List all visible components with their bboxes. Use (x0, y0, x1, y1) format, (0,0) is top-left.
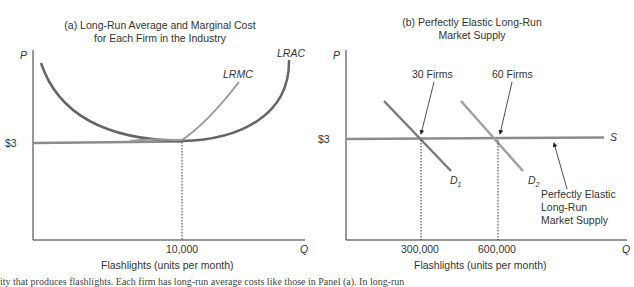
label-60-firms: 60 Firms (492, 68, 533, 80)
arrow-30-firms (421, 82, 434, 134)
supply-line (346, 138, 604, 140)
arrow-supply-note (554, 143, 567, 189)
lrmc-label: LRMC (223, 68, 253, 80)
y-axis-label: P (333, 49, 340, 61)
y-axis-label: P (20, 49, 27, 61)
x-axis-label: Q (622, 243, 630, 255)
supply-label: S (610, 131, 617, 143)
x-axis-title: Flashlights (units per month) (414, 259, 546, 271)
supply-note: Perfectly Elastic Long-Run Market Supply (541, 188, 616, 227)
caption-text: ity that produces flashlights. Each firm… (0, 276, 404, 287)
q-tick-1: 300,000 (401, 243, 439, 255)
label-30-firms: 30 Firms (412, 68, 453, 80)
x-axis-title: Flashlights (units per month) (101, 259, 233, 271)
panel-a-plot (0, 0, 317, 287)
price-tick: $3 (318, 133, 330, 145)
d2-label: D2 (528, 174, 540, 188)
demand-curve-d2 (461, 101, 523, 171)
q-tick-2: 600,000 (478, 243, 516, 255)
panel-b: (b) Perfectly Elastic Long-Run Market Su… (317, 0, 634, 287)
price-line (33, 142, 182, 144)
panel-a: (a) Long-Run Average and Marginal Cost f… (0, 0, 317, 287)
panel-b-plot (317, 0, 634, 287)
demand-curve-d1 (384, 101, 451, 171)
lrac-label: LRAC (277, 47, 305, 59)
x-axis-label: Q (300, 243, 308, 255)
d1-label: D1 (450, 174, 462, 188)
lrmc-curve (130, 82, 239, 141)
q-tick: 10,000 (166, 243, 198, 255)
price-tick: $3 (5, 137, 17, 149)
arrow-60-firms (500, 82, 512, 134)
